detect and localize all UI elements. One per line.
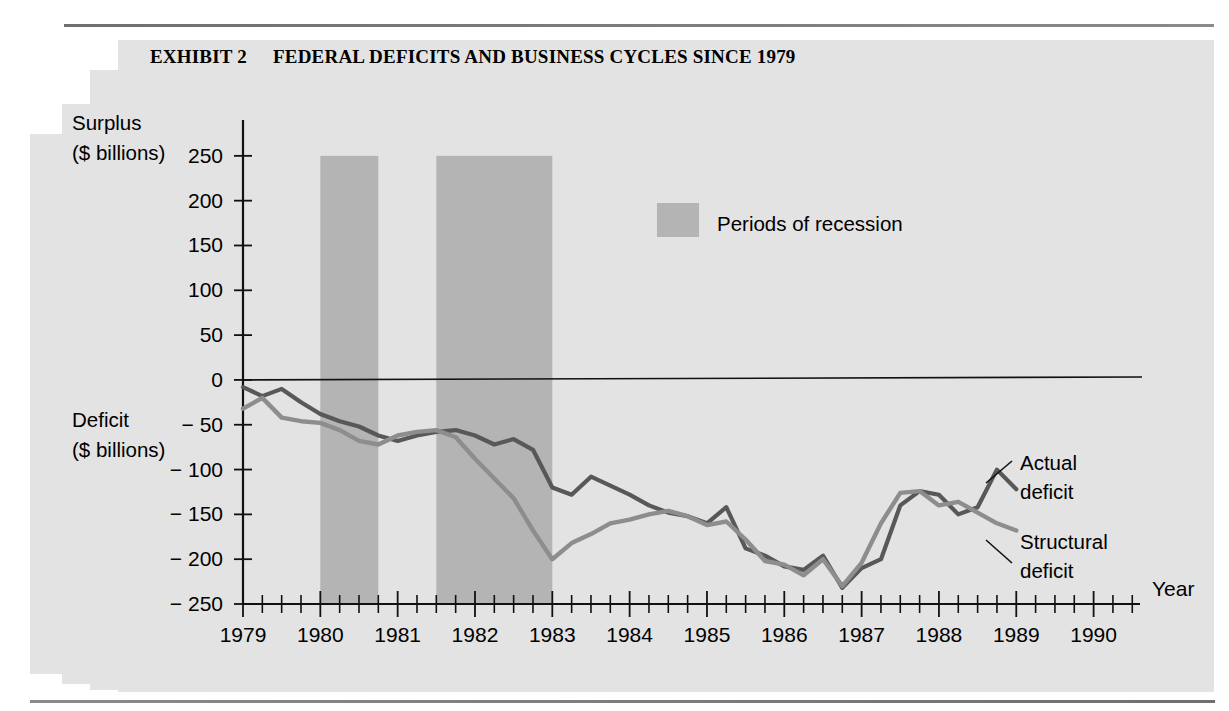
exhibit-panel <box>118 40 1214 692</box>
exhibit-title-row: EXHIBIT 2 FEDERAL DEFICITS AND BUSINESS … <box>150 40 1050 74</box>
top-rule <box>64 24 1214 27</box>
bottom-rule <box>30 700 1215 703</box>
page-title: FEDERAL DEFICITS AND BUSINESS CYCLES SIN… <box>273 46 796 68</box>
exhibit-label: EXHIBIT 2 <box>150 46 247 68</box>
